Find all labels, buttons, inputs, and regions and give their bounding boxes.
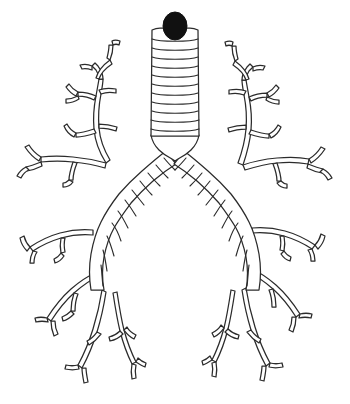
glottis-oval: [163, 12, 187, 40]
bronchial-tree-figure: Bronchial Tree Line drawing of the human…: [0, 0, 350, 404]
bronchial-tree-illustration: Bronchial Tree Line drawing of the human…: [0, 0, 350, 404]
trachea: [151, 28, 199, 136]
